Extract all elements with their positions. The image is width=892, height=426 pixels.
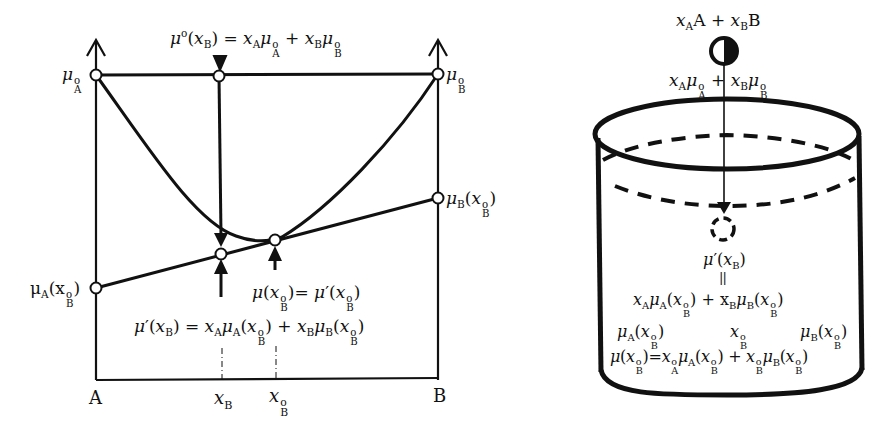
label-muA0: μoA μ°_A bbox=[62, 66, 81, 95]
point-mu-prime-xB bbox=[216, 249, 227, 260]
up-arrow-icon bbox=[268, 246, 282, 261]
liquid-surface-front bbox=[615, 178, 855, 206]
insertion-arrow-icon bbox=[717, 202, 731, 214]
bath-equation: μ(xoB)=xoAμA(xoB) + xoBμB(xoB) μ(x°_B) =… bbox=[610, 349, 808, 376]
label-muA-xB0: μA(xoB) μ_A(x°_B) bbox=[30, 280, 80, 309]
down-arrow-head-icon bbox=[214, 233, 228, 247]
point-muB-xB0 bbox=[433, 193, 444, 204]
liquid-surface-back bbox=[603, 135, 853, 160]
point-mu0-xB bbox=[214, 71, 225, 82]
eq-tangent-point: μ(xoB)= μ′(xoB) μ(x°_B) = μ'(x°_B) bbox=[252, 284, 360, 313]
inserted-molecule-icon bbox=[712, 218, 734, 240]
tick-label-xB0: xoB x°_B bbox=[269, 387, 288, 418]
free-energy-curve bbox=[96, 74, 438, 241]
composition-baseline bbox=[96, 378, 438, 380]
eq-bottom-tangent: μ′(xB) = xAμA(xoB) + xBμB(xoB) μ'(x_B) =… bbox=[134, 318, 364, 347]
xB-vertical-line bbox=[219, 76, 221, 236]
axis-label-B: B bbox=[433, 387, 446, 405]
point-muA-xB0 bbox=[91, 283, 102, 294]
label-muB0: μoB μ°_B bbox=[446, 66, 466, 95]
point-tangent-xB0 bbox=[270, 235, 281, 246]
axis-label-A: A bbox=[89, 389, 102, 407]
point-muA0 bbox=[91, 70, 102, 81]
tick-label-xB: xB x_B bbox=[214, 389, 232, 407]
mixture-potential: xAμoA + xBμoB x_A μ°_A + x_B μ°_B bbox=[669, 72, 768, 101]
tangent-line bbox=[96, 198, 438, 288]
equals-vertical: || bbox=[719, 271, 726, 284]
cylinder-left-wall bbox=[598, 138, 601, 372]
up-arrow-icon bbox=[214, 259, 228, 274]
cylinder-right-wall bbox=[859, 136, 862, 370]
mu-prime-expansion: xAμA(xoB) + xBμB(xoB) x_A μ_A(x°_B) + x_… bbox=[633, 292, 784, 319]
label-muB-xB0: μB(xoB) μ_B(x°_B) bbox=[446, 190, 496, 219]
eq-top-ideal: μo(xB) = xAμoA + xBμoB μ°(x_B) = x_A μ°_… bbox=[170, 30, 342, 59]
mixture-label: xAA + xBB x_A A + x_B B bbox=[676, 12, 760, 29]
point-muB0 bbox=[433, 69, 444, 80]
ideal-mixing-line bbox=[96, 74, 438, 75]
mu-prime-label: μ′(xB) μ'(x_B) bbox=[703, 252, 746, 268]
